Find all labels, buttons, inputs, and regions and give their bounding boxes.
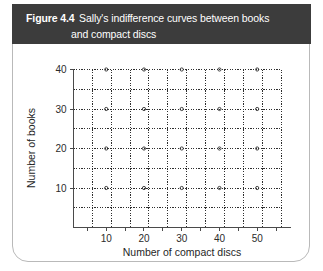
y-tick-label: 20 bbox=[55, 143, 67, 154]
figure-header: Figure 4.4 Sally's indifference curves b… bbox=[12, 4, 311, 44]
x-axis-tick-marks bbox=[87, 228, 276, 232]
x-tick-label: 50 bbox=[252, 233, 264, 244]
figure-caption-line-2: and compact discs bbox=[71, 28, 156, 40]
x-tick-label: 30 bbox=[176, 233, 188, 244]
figure-header-line-1: Figure 4.4 Sally's indifference curves b… bbox=[26, 10, 301, 26]
indifference-curve-chart: 1020304050 10203040 Number of compact di… bbox=[13, 45, 311, 263]
figure-caption-line-1: Sally's indifference curves between book… bbox=[79, 12, 269, 24]
x-axis-title: Number of compact discs bbox=[123, 246, 241, 258]
y-axis-tick-labels: 10203040 bbox=[55, 64, 67, 194]
x-tick-label: 40 bbox=[214, 233, 226, 244]
figure-number: Figure 4.4 bbox=[26, 12, 75, 24]
x-tick-label: 10 bbox=[101, 233, 113, 244]
y-axis-title: Number of books bbox=[25, 108, 37, 188]
figure-header-line-2: and compact discs bbox=[26, 26, 301, 42]
figure-card: Figure 4.4 Sally's indifference curves b… bbox=[12, 4, 310, 262]
y-tick-label: 30 bbox=[55, 104, 67, 115]
y-axis-tick-marks bbox=[70, 70, 74, 189]
x-tick-label: 20 bbox=[138, 233, 150, 244]
y-tick-label: 40 bbox=[55, 64, 67, 75]
x-axis-tick-labels: 1020304050 bbox=[101, 233, 264, 244]
chart-plot-area: 1020304050 10203040 Number of compact di… bbox=[13, 45, 311, 263]
y-tick-label: 10 bbox=[55, 183, 67, 194]
